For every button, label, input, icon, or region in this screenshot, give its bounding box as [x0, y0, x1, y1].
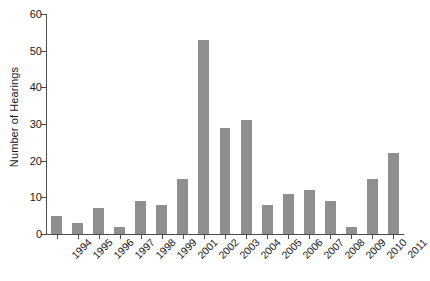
y-tick-label: 30	[30, 118, 42, 130]
bar	[346, 227, 357, 234]
bars-layer	[46, 14, 404, 234]
bar	[135, 201, 146, 234]
bar	[198, 40, 209, 234]
bar	[367, 179, 378, 234]
bar	[51, 216, 62, 234]
bar	[220, 128, 231, 234]
x-axis-labels: 1994199519961997199819992001200220032004…	[46, 236, 404, 281]
bar	[72, 223, 83, 234]
x-tick-label: 1994	[68, 236, 93, 261]
x-tick-label: 2004	[258, 236, 283, 261]
y-tick-label: 10	[30, 191, 42, 203]
x-tick-label: 2008	[342, 236, 367, 261]
x-tick-label: 1997	[132, 236, 157, 261]
bar	[262, 205, 273, 234]
plot-area: 0102030405060	[46, 14, 404, 234]
x-tick-label: 2011	[405, 236, 429, 260]
bar	[388, 153, 399, 234]
x-tick-label: 2006	[300, 236, 325, 261]
bar	[177, 179, 188, 234]
x-tick-label: 2010	[384, 236, 409, 261]
x-tick-label: 1999	[174, 236, 199, 261]
y-tick-label: 20	[30, 155, 42, 167]
x-tick-label: 2005	[279, 236, 304, 261]
x-tick-label: 2009	[363, 236, 388, 261]
y-tick-label: 40	[30, 81, 42, 93]
x-tick-label: 1998	[153, 236, 178, 261]
bar	[304, 190, 315, 234]
bar	[241, 120, 252, 234]
bar	[93, 208, 104, 234]
x-tick-label: 2002	[216, 236, 241, 261]
bar	[283, 194, 294, 234]
y-tick-label: 60	[30, 8, 42, 20]
bar	[156, 205, 167, 234]
x-tick-label: 2001	[195, 236, 220, 261]
bar	[114, 227, 125, 234]
bar	[325, 201, 336, 234]
x-tick-label: 2003	[237, 236, 262, 261]
x-tick-label: 2007	[321, 236, 346, 261]
y-tick-label: 0	[36, 228, 42, 240]
y-axis-title: Number of Hearings	[6, 0, 22, 234]
x-tick-label: 1995	[89, 236, 114, 261]
x-tick-label: 1996	[110, 236, 135, 261]
y-tick-label: 50	[30, 45, 42, 57]
